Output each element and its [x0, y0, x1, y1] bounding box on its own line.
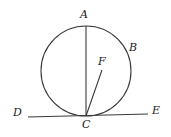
- geometry-figure: A B C D E F: [0, 0, 171, 137]
- point-label-a: A: [80, 9, 88, 20]
- segment-cf: [86, 70, 102, 116]
- point-label-e: E: [152, 105, 160, 116]
- point-label-b: B: [129, 42, 137, 53]
- point-label-d: D: [13, 107, 22, 118]
- tangent-line-de: [28, 114, 148, 117]
- point-label-f: F: [98, 56, 106, 67]
- point-label-c: C: [82, 119, 90, 130]
